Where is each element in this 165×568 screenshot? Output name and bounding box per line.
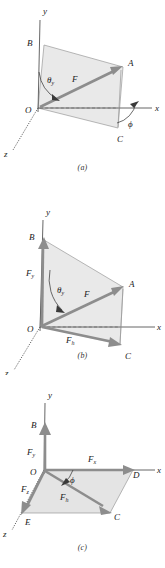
panel-a: y x z B O A C F θy ϕ (a) [0, 0, 165, 185]
panel-c: y x z B O D C E Fy Fx Fz Fh ϕ (c) [0, 375, 165, 568]
panel-c-vector-Fy [39, 422, 51, 470]
panel-c-diagram: y x z B O D C E Fy Fx Fz Fh ϕ [0, 375, 165, 568]
panel-c-point-D: D [132, 470, 140, 480]
panel-a-vector-label-F: F [71, 74, 78, 84]
panel-a-angle-label-phi: ϕ [128, 119, 133, 129]
panel-b-vector-label-F: F [83, 289, 90, 299]
panel-b-vector-label-Fh: Fh [65, 335, 75, 346]
panel-a-label-y: y [42, 6, 47, 16]
panel-a-point-O: O [25, 105, 32, 115]
panel-a-label-z: z [3, 149, 8, 159]
panel-a-point-B: B [27, 38, 33, 48]
panel-b-point-A: A [128, 279, 135, 289]
panel-c-vector-label-Fz: Fz [20, 484, 30, 495]
panel-b: y x z B O A C F Fy Fh θy (b) [0, 185, 165, 375]
panel-c-point-B: B [31, 420, 37, 430]
panel-c-label-z: z [2, 529, 7, 539]
panel-b-label-z: z [4, 368, 9, 375]
panel-b-point-O: O [27, 324, 34, 334]
panel-b-vector-label-Fy: Fy [25, 268, 35, 279]
panel-c-point-O: O [30, 467, 37, 477]
panel-c-point-C: C [114, 512, 121, 522]
panel-c-caption: (c) [0, 543, 165, 552]
panel-c-point-E: E [24, 517, 31, 527]
panel-b-label-y: y [45, 207, 50, 217]
panel-b-caption: (b) [0, 351, 165, 360]
panel-b-point-B: B [29, 232, 35, 242]
panel-c-angle-label-phi: ϕ [70, 475, 75, 485]
panel-a-point-A: A [127, 58, 134, 68]
panel-a-label-x: x [154, 103, 159, 113]
panel-c-label-x: x [156, 465, 161, 475]
panel-a-diagram: y x z B O A C F θy ϕ [0, 0, 165, 185]
panel-b-diagram: y x z B O A C F Fy Fh θy [0, 185, 165, 375]
panel-b-label-x: x [156, 322, 161, 332]
panel-c-vector-label-Fy: Fy [26, 447, 36, 458]
panel-c-label-y: y [47, 390, 52, 400]
panel-c-vector-label-Fx: Fx [87, 454, 97, 465]
panel-a-caption: (a) [0, 163, 165, 172]
panel-a-point-C: C [117, 134, 124, 144]
